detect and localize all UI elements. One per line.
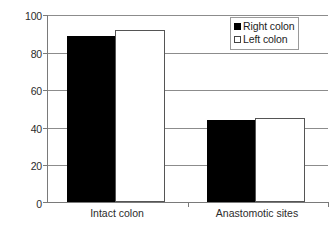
y-tick-label-0: 0	[2, 199, 42, 210]
y-tick-60	[43, 90, 48, 91]
legend-swatch-hollow-square-icon	[234, 36, 241, 43]
y-tick-label-80: 80	[2, 49, 42, 60]
chart-legend: Right colon Left colon	[230, 17, 299, 50]
legend-swatch-filled-square-icon	[234, 23, 241, 30]
y-tick-label-100: 100	[2, 11, 42, 22]
legend-item-right-colon: Right colon	[234, 20, 294, 33]
x-axis-tick-labels: Intact colon Anastomotic sites	[47, 208, 328, 228]
y-tick-label-20: 20	[2, 161, 42, 172]
bar-left-colon-anastomotic-sites	[255, 118, 305, 202]
x-tick-label-anastomotic-sites: Anastomotic sites	[195, 208, 319, 220]
y-tick-40	[43, 128, 48, 129]
x-axis-end-tick	[328, 202, 329, 207]
bar-right-colon-intact-colon	[67, 36, 115, 202]
y-tick-label-40: 40	[2, 124, 42, 135]
bar-chart: 100 80 60 40 20 0 Intact colon Anasto	[0, 0, 336, 236]
y-tick-80	[43, 53, 48, 54]
x-tick-label-intact-colon: Intact colon	[55, 208, 179, 220]
bar-right-colon-anastomotic-sites	[207, 120, 255, 202]
y-tick-label-60: 60	[2, 86, 42, 97]
x-axis-category-divider-tick	[188, 202, 189, 207]
y-tick-20	[43, 165, 48, 166]
y-tick-0	[43, 202, 48, 203]
bar-left-colon-intact-colon	[115, 30, 165, 202]
legend-item-left-colon: Left colon	[234, 33, 294, 46]
legend-label-left-colon: Left colon	[243, 34, 288, 45]
gridline-100	[48, 15, 328, 16]
legend-label-right-colon: Right colon	[243, 21, 294, 32]
y-tick-100	[43, 15, 48, 16]
